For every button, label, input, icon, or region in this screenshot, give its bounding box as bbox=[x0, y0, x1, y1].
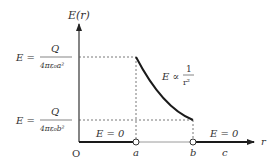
curve-annotation-den: r² bbox=[183, 78, 190, 87]
point-a bbox=[133, 139, 139, 145]
tick-b: b bbox=[190, 147, 196, 158]
field-diagram: E(r) r O a b c E = Q 4πε₀a² E = Q 4πε₀b²… bbox=[0, 0, 277, 162]
inner-zero-label: E = 0 bbox=[95, 128, 125, 139]
curve-annotation-lhs: E ∝ bbox=[161, 71, 179, 82]
top-level-num: Q bbox=[51, 43, 59, 54]
top-level-lhs: E = bbox=[15, 52, 35, 63]
origin-label: O bbox=[72, 148, 80, 159]
bottom-level-den: 4πε₀b² bbox=[39, 124, 65, 133]
tick-a: a bbox=[133, 147, 139, 158]
top-level-den: 4πε₀a² bbox=[39, 61, 64, 70]
field-curve bbox=[136, 57, 193, 120]
bottom-level-lhs: E = bbox=[15, 115, 35, 126]
tick-c: c bbox=[222, 147, 228, 158]
outer-zero-label: E = 0 bbox=[209, 128, 239, 139]
x-axis-label: r bbox=[261, 136, 267, 147]
curve-annotation-num: 1 bbox=[186, 64, 192, 74]
y-axis-label: E(r) bbox=[67, 9, 90, 22]
point-b bbox=[190, 139, 196, 145]
bottom-level-num: Q bbox=[51, 106, 59, 117]
